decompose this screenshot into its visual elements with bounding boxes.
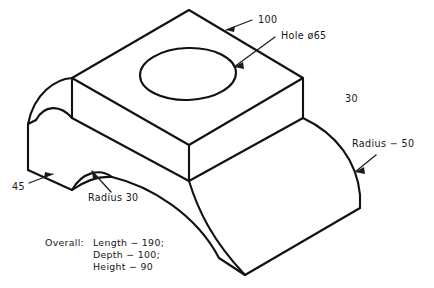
overall-note-depth: Depth − 100; (93, 249, 160, 260)
overall-note-prefix: Overall: (45, 237, 84, 248)
label-top-width: 100 (258, 14, 277, 25)
leader-annotations (29, 20, 376, 192)
overall-note-height: Height − 90 (93, 261, 153, 272)
label-hole: Hole ø65 (281, 30, 327, 41)
boss-lower-left-edge (72, 118, 189, 181)
overall-note-length: Length − 190; (93, 237, 164, 248)
leader-line-radius-large (355, 155, 376, 172)
left-face-notch-arc (36, 108, 72, 120)
label-left-thickness: 45 (12, 181, 25, 192)
top-face-outline (72, 10, 303, 145)
isometric-drawing-canvas: 100 Hole ø65 30 Radius − 50 45 Radius 30… (0, 0, 434, 288)
hole-geometry (139, 46, 237, 101)
left-face-convex-arc (28, 78, 72, 124)
left-face-bottom-edge (28, 170, 72, 190)
right-convex-arc (303, 118, 360, 195)
label-right-height: 30 (345, 93, 358, 104)
label-radius-small: Radius 30 (88, 192, 139, 203)
bottom-right-edge (245, 208, 360, 275)
technical-drawing-sheet: 100 Hole ø65 30 Radius − 50 45 Radius 30… (0, 0, 434, 288)
hole-ellipse (139, 46, 237, 101)
label-radius-large: Radius − 50 (352, 138, 414, 149)
overall-dimensions-note: Overall: Length − 190; Depth − 100; Heig… (45, 237, 164, 272)
solid-body-geometry (28, 10, 360, 275)
front-notch-inner-arc (72, 177, 112, 190)
boss-lower-right-edge (189, 118, 303, 181)
